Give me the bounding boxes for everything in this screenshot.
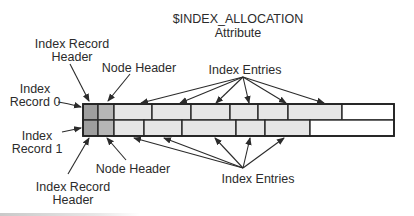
top-record-header-label-1: Index Record xyxy=(35,37,109,51)
entry-cell xyxy=(230,104,258,120)
bottom-record-header-label-2: Header xyxy=(53,193,94,207)
title-line-1: $INDEX_ALLOCATION xyxy=(173,12,303,26)
top-node-header-label: Node Header xyxy=(102,61,176,75)
top-record-header-label-2: Header xyxy=(52,50,93,64)
free-cell xyxy=(310,120,394,136)
arrow-top-record-header xyxy=(70,64,89,101)
arrow-top-entry-5 xyxy=(243,77,286,103)
scan-edge-line xyxy=(0,213,140,216)
arrow-bottom-entry-2 xyxy=(164,138,243,168)
entry-cell xyxy=(265,120,310,136)
node-header-cell xyxy=(98,104,114,120)
arrow-bottom-record-header xyxy=(68,138,89,174)
arrow-top-entry-2 xyxy=(180,77,243,103)
entry-cell xyxy=(288,104,342,120)
index-record-1 xyxy=(83,120,394,136)
bottom-record-header-label-1: Index Record xyxy=(36,180,110,194)
record-header-cell xyxy=(83,104,98,120)
entry-cell xyxy=(114,104,152,120)
entry-cell xyxy=(182,120,236,136)
top-index-entries-label: Index Entries xyxy=(209,63,282,77)
arrow-record1 xyxy=(62,128,81,132)
entry-cell xyxy=(258,104,288,120)
index-records xyxy=(83,104,394,136)
entry-cell xyxy=(191,104,230,120)
record1-label-2: Record 1 xyxy=(12,142,63,156)
record1-label-1: Index xyxy=(22,129,53,143)
entry-cell xyxy=(152,104,191,120)
arrow-top-entry-6 xyxy=(243,77,324,103)
title-line-2: Attribute xyxy=(215,26,262,40)
arrow-top-entry-1 xyxy=(141,77,243,103)
record0-label-1: Index xyxy=(20,82,51,96)
index-record-0 xyxy=(83,104,394,120)
record0-label-2: Record 0 xyxy=(10,95,61,109)
entry-cell xyxy=(114,120,144,136)
arrow-top-entry-4 xyxy=(243,77,249,103)
arrow-top-node-header xyxy=(108,74,130,101)
arrow-bottom-entry-3 xyxy=(215,138,243,168)
node-header-cell xyxy=(98,120,114,136)
entry-cell xyxy=(144,120,182,136)
entry-cell xyxy=(236,120,265,136)
arrow-record0 xyxy=(58,102,81,107)
arrow-bottom-node-header xyxy=(107,138,126,160)
free-cell xyxy=(342,104,394,120)
index-allocation-diagram: $INDEX_ALLOCATION Attribute Index Record… xyxy=(0,0,414,216)
bottom-index-entries-label: Index Entries xyxy=(222,172,295,186)
bottom-node-header-label: Node Header xyxy=(96,162,170,176)
record-header-cell xyxy=(83,120,98,136)
